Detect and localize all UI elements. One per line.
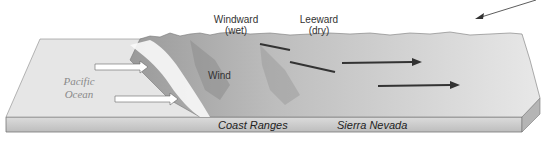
leeward-title: Leeward: [294, 14, 344, 25]
ocean-label-line2: Ocean: [56, 88, 102, 101]
wind-label: Wind: [208, 70, 231, 81]
ocean-label: Pacific Ocean: [56, 75, 102, 101]
sierra-nevada-label: Sierra Nevada: [337, 119, 407, 131]
coast-ranges-label: Coast Ranges: [218, 119, 288, 131]
ocean-label-line1: Pacific: [56, 75, 102, 88]
windward-subtitle: (wet): [208, 25, 264, 36]
leeward-subtitle: (dry): [294, 25, 344, 36]
leeward-label: Leeward (dry): [294, 14, 344, 36]
windward-title: Windward: [208, 14, 264, 25]
windward-label: Windward (wet): [208, 14, 264, 36]
orographic-diagram: Windward (wet) Leeward (dry) Wind Pacifi…: [0, 0, 542, 143]
pointer-line: [478, 0, 536, 18]
